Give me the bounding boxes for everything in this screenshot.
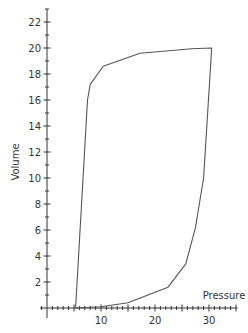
data-series (76, 48, 212, 308)
pv-loop-line (76, 48, 212, 308)
x-tick-label: 10 (95, 315, 108, 326)
x-axis-title: Pressure (203, 290, 246, 301)
x-tick-label: 30 (203, 315, 216, 326)
y-tick-label: 14 (28, 121, 41, 132)
y-tick-label: 22 (28, 17, 41, 28)
y-tick-label: 12 (28, 147, 41, 158)
y-tick-label: 4 (35, 251, 41, 262)
y-tick-label: 6 (35, 225, 41, 236)
y-tick-label: 16 (28, 95, 41, 106)
pressure-volume-chart: 246810121416182022 102030 Pressure Volum… (0, 0, 248, 333)
y-axis-title: Volume (10, 143, 21, 180)
x-axis: 102030 (40, 305, 238, 327)
y-tick-label: 2 (35, 277, 41, 288)
y-tick-label: 10 (28, 173, 41, 184)
y-tick-label: 20 (28, 43, 41, 54)
y-tick-label: 18 (28, 69, 41, 80)
x-tick-label: 20 (149, 315, 162, 326)
y-axis: 246810121416182022 (28, 9, 50, 318)
y-tick-label: 8 (35, 199, 41, 210)
